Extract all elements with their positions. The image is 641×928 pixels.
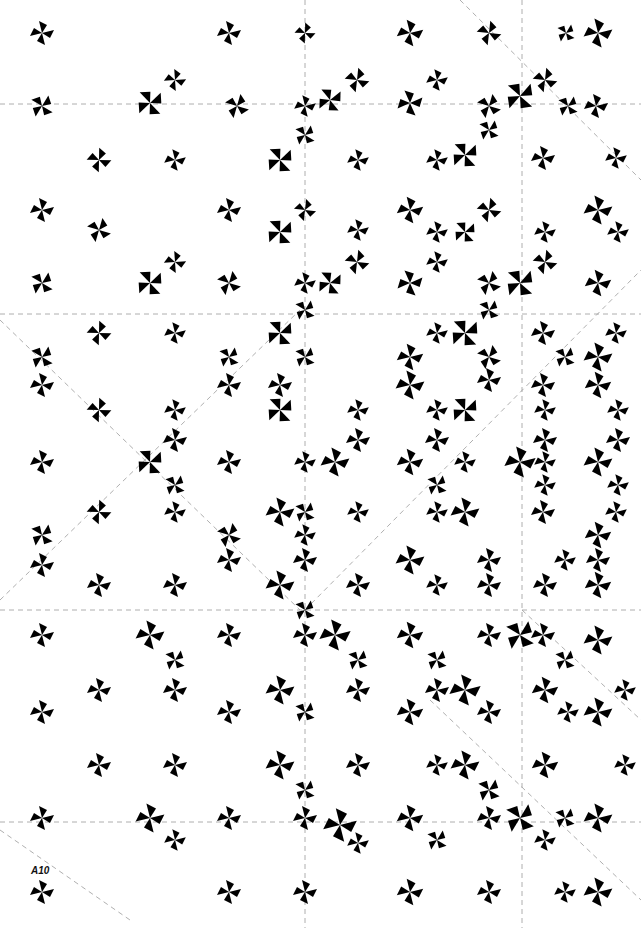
- pinwheel-motif: [347, 149, 369, 171]
- pinwheel-motif: [342, 247, 373, 278]
- pinwheel-motif: [584, 804, 613, 833]
- pinwheel-motif: [426, 251, 448, 273]
- pinwheel-motif: [554, 549, 576, 571]
- pinwheel-motif: [294, 451, 316, 473]
- pinwheel-motif: [30, 21, 54, 45]
- pinwheel-motif: [217, 806, 241, 830]
- pinwheel-motif: [319, 619, 350, 650]
- pinwheel-motif: [130, 442, 169, 481]
- pinwheel-motif: [136, 804, 165, 833]
- pinwheel-motif: [217, 21, 241, 45]
- pinwheel-motif: [530, 247, 561, 278]
- pinwheel-motif: [552, 19, 579, 46]
- pinwheel-motif: [605, 501, 627, 523]
- pinwheel-motif: [422, 645, 453, 676]
- pinwheel-motif: [449, 216, 482, 249]
- pinwheel-motif: [533, 428, 557, 452]
- pinwheel-motif: [533, 573, 557, 597]
- pinwheel-motif: [477, 548, 501, 572]
- pinwheel-motif: [477, 700, 501, 724]
- pinwheel-motif: [164, 399, 186, 421]
- pinwheel-motif: [293, 806, 317, 830]
- pinwheel-motif: [87, 678, 111, 702]
- pinwheel-motif: [606, 428, 630, 452]
- pinwheel-motif: [534, 451, 556, 473]
- pinwheel-motif: [266, 676, 295, 705]
- pinwheel-motif: [474, 18, 505, 49]
- pinwheel-motif: [217, 623, 241, 647]
- pinwheel-motif: [477, 573, 501, 597]
- pinwheel-motif: [473, 90, 506, 123]
- pinwheel-motif: [160, 645, 191, 676]
- pinwheel-motif: [607, 221, 629, 243]
- pinwheel-motif: [347, 501, 369, 523]
- pinwheel-motif: [474, 195, 505, 226]
- pinwheel-motif: [217, 373, 241, 397]
- pinwheel-motif: [87, 753, 111, 777]
- pinwheel-motif: [217, 548, 241, 572]
- pinwheel-motif: [347, 399, 369, 421]
- pinwheel-motif: [534, 829, 556, 851]
- pinwheel-motif: [557, 701, 579, 723]
- pinwheel-motif: [346, 753, 370, 777]
- pinwheel-motif: [346, 573, 370, 597]
- pinwheel-motif: [584, 196, 613, 225]
- pinwheel-motif: [30, 198, 54, 222]
- guide-line: [522, 610, 641, 720]
- pinwheel-motif: [472, 773, 506, 807]
- pinwheel-motif: [605, 147, 627, 169]
- pinwheel-motif: [477, 880, 501, 904]
- pinwheel-motif: [164, 829, 186, 851]
- pinwheel-motif: [473, 267, 506, 300]
- pinwheel-motif: [426, 69, 448, 91]
- pinwheel-motif: [343, 645, 374, 676]
- pinwheel-motif: [260, 140, 299, 179]
- pinwheel-motif: [426, 574, 448, 596]
- pinwheel-motif: [607, 474, 629, 496]
- pinwheel-motif: [584, 448, 613, 477]
- pinwheel-motif: [397, 805, 423, 831]
- pinwheel-motif: [614, 754, 636, 776]
- pinwheel-motif: [294, 272, 316, 294]
- pinwheel-motifs: [25, 18, 636, 907]
- pinwheel-motif: [293, 880, 317, 904]
- pinwheel-motif: [498, 74, 541, 117]
- pinwheel-motif: [163, 428, 187, 452]
- pinwheel-motif: [164, 322, 186, 344]
- pinwheel-motif: [586, 548, 610, 572]
- pinwheel-motif: [426, 754, 448, 776]
- pinwheel-motif: [346, 428, 370, 452]
- pinwheel-motif: [585, 572, 611, 598]
- pinwheel-motif: [584, 19, 613, 48]
- pinwheel-motif: [585, 270, 611, 296]
- pinwheel-motif: [451, 751, 480, 780]
- pinwheel-motif: [451, 498, 480, 527]
- pinwheel-motif: [25, 518, 59, 552]
- pinwheel-motif: [426, 399, 448, 421]
- pinwheel-motif: [531, 500, 555, 524]
- pinwheel-motif: [130, 263, 169, 302]
- pinwheel-motif: [445, 135, 484, 174]
- pinwheel-motif: [397, 20, 423, 46]
- pinwheel-motif: [84, 318, 113, 347]
- pinwheel-motif: [266, 571, 295, 600]
- pinwheel-motif: [347, 832, 369, 854]
- pinwheel-motif: [426, 322, 448, 344]
- pinwheel-motif: [164, 149, 186, 171]
- pinwheel-motif: [293, 21, 318, 46]
- pinwheel-motif: [213, 267, 246, 300]
- guide-line: [0, 830, 130, 920]
- pinwheel-motif: [585, 372, 611, 398]
- geometric-pattern-artwork: [0, 0, 641, 928]
- pinwheel-motif: [397, 449, 423, 475]
- pinwheel-motif: [504, 446, 535, 477]
- pinwheel-motif: [83, 214, 116, 247]
- pinwheel-motif: [449, 674, 480, 705]
- pinwheel-motif: [30, 373, 54, 397]
- pinwheel-motif: [422, 825, 453, 856]
- pinwheel-motif: [214, 342, 245, 373]
- pinwheel-motif: [426, 149, 448, 171]
- pinwheel-motif: [136, 621, 165, 650]
- pinwheel-motif: [397, 197, 423, 223]
- pinwheel-motif: [474, 295, 505, 326]
